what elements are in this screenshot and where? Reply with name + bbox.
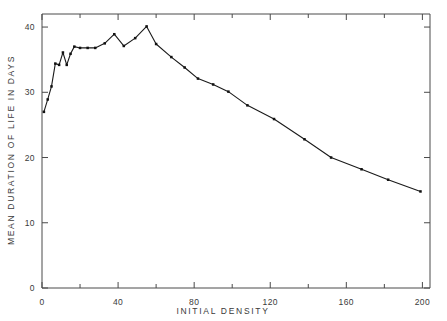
x-tick-label: 160 — [339, 297, 354, 307]
data-point-marker — [212, 83, 215, 86]
chart-figure: 04080120160200 010203040 INITIAL DENSITY… — [0, 0, 447, 321]
data-point-marker — [197, 77, 200, 80]
data-point-marker — [113, 33, 116, 36]
data-point-marker — [86, 47, 89, 50]
data-point-marker — [273, 118, 276, 121]
data-point-marker — [73, 45, 76, 48]
line-chart-svg: 04080120160200 010203040 INITIAL DENSITY… — [0, 0, 447, 321]
data-point-marker — [94, 47, 97, 50]
data-point-marker — [387, 178, 390, 181]
data-point-marker — [170, 56, 173, 59]
x-tick-label: 200 — [415, 297, 430, 307]
data-point-marker — [155, 43, 158, 46]
data-point-marker — [360, 168, 363, 171]
y-tick-label: 40 — [25, 22, 35, 32]
data-point-marker — [46, 98, 49, 101]
data-point-marker — [145, 25, 148, 28]
y-axis-ticks — [42, 27, 430, 288]
x-axis-ticks — [42, 14, 422, 288]
y-tick-label: 0 — [30, 283, 35, 293]
data-point-marker — [134, 37, 137, 40]
x-axis-title: INITIAL DENSITY — [176, 306, 269, 316]
y-axis-title: MEAN DURATION OF LIFE IN DAYS — [6, 55, 16, 245]
data-point-marker — [303, 138, 306, 141]
data-point-marker — [43, 111, 46, 114]
data-point-marker — [69, 53, 72, 56]
y-tick-label: 10 — [25, 218, 35, 228]
data-point-marker — [54, 62, 57, 64]
data-markers — [43, 25, 422, 193]
data-series-group — [43, 25, 422, 193]
data-point-marker — [62, 51, 65, 54]
data-point-marker — [79, 47, 82, 50]
data-point-marker — [330, 156, 333, 159]
data-point-marker — [227, 90, 230, 93]
data-point-marker — [65, 64, 68, 66]
y-tick-label: 20 — [25, 153, 35, 163]
data-point-marker — [104, 42, 107, 45]
x-tick-label: 0 — [39, 297, 44, 307]
data-point-marker — [419, 190, 422, 193]
data-line-mean-duration — [44, 26, 421, 191]
x-tick-label: 40 — [113, 297, 123, 307]
y-axis-tick-labels: 010203040 — [25, 22, 35, 293]
y-tick-label: 30 — [25, 87, 35, 97]
plot-frame — [42, 14, 430, 288]
data-point-marker — [183, 66, 186, 69]
data-point-marker — [58, 64, 61, 66]
data-point-marker — [50, 85, 53, 88]
data-point-marker — [123, 45, 126, 48]
data-point-marker — [246, 104, 249, 107]
